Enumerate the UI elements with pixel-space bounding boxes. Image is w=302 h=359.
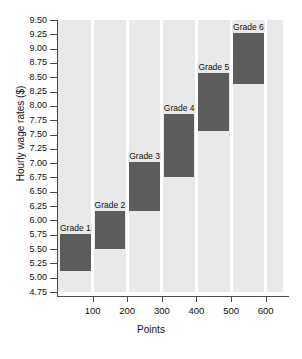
bar-label-grade-3: Grade 3 [128, 151, 161, 161]
y-tick-label-wrap: 8.50 [0, 73, 58, 82]
y-tick-label-9.00: 9.00 [3, 44, 58, 53]
y-tick-label-wrap: 9.25 [0, 30, 58, 39]
bar-grade-6 [233, 33, 264, 84]
x-tick-600 [266, 296, 267, 302]
y-tick-label-6.00: 6.00 [3, 216, 58, 225]
y-tick-label-8.25: 8.25 [3, 87, 58, 96]
y-tick-label-6.75: 6.75 [3, 173, 58, 182]
y-tick-label-wrap: 7.25 [0, 144, 58, 153]
bar-label-grade-2: Grade 2 [94, 200, 127, 210]
y-tick-label-5.25: 5.25 [3, 259, 58, 268]
y-tick-label-wrap: 6.50 [0, 187, 58, 196]
y-tick-label-6.25: 6.25 [3, 202, 58, 211]
y-tick-label-wrap: 5.75 [0, 230, 58, 239]
gridline-x-100 [91, 20, 94, 292]
bar-label-grade-5: Grade 5 [197, 62, 230, 72]
y-tick-label-wrap: 9.00 [0, 44, 58, 53]
x-tick-300 [162, 296, 163, 302]
bar-grade-2 [95, 211, 126, 249]
y-tick-label-wrap: 6.00 [0, 216, 58, 225]
y-tick-label-wrap: 9.50 [0, 16, 58, 25]
y-tick-label-wrap: 8.25 [0, 87, 58, 96]
x-tick-500 [231, 296, 232, 302]
y-tick-label-5.75: 5.75 [3, 230, 58, 239]
y-tick-label-wrap: 5.25 [0, 259, 58, 268]
wage-structure-chart: Hourly wage rates ($) Points Grade 1Grad… [0, 0, 302, 359]
y-tick-label-wrap: 7.75 [0, 116, 58, 125]
x-tick-200 [127, 296, 128, 302]
bar-label-grade-6: Grade 6 [232, 22, 265, 32]
y-tick-label-9.50: 9.50 [3, 16, 58, 25]
y-tick-label-7.00: 7.00 [3, 159, 58, 168]
y-tick-label-wrap: 4.75 [0, 288, 58, 297]
y-tick-label-wrap: 7.50 [0, 130, 58, 139]
y-tick-label-8.50: 8.50 [3, 73, 58, 82]
bar-grade-4 [164, 114, 195, 177]
y-tick-label-7.25: 7.25 [3, 144, 58, 153]
y-tick-label-wrap: 6.75 [0, 173, 58, 182]
bar-label-grade-1: Grade 1 [59, 223, 92, 233]
x-tick-400 [196, 296, 197, 302]
y-tick-label-4.75: 4.75 [3, 288, 58, 297]
y-tick-label-wrap: 8.00 [0, 101, 58, 110]
x-tick-label-600: 600 [246, 305, 286, 316]
y-tick-label-wrap: 7.00 [0, 159, 58, 168]
bar-grade-1 [60, 234, 91, 272]
bar-label-grade-4: Grade 4 [163, 103, 196, 113]
y-tick-label-wrap: 8.75 [0, 58, 58, 67]
y-tick-label-5.00: 5.00 [3, 273, 58, 282]
y-tick-label-6.50: 6.50 [3, 187, 58, 196]
y-tick-label-7.75: 7.75 [3, 116, 58, 125]
y-tick-label-8.75: 8.75 [3, 58, 58, 67]
y-tick-label-wrap: 6.25 [0, 202, 58, 211]
bar-grade-3 [129, 162, 160, 211]
bar-grade-5 [198, 73, 229, 131]
y-tick-label-7.50: 7.50 [3, 130, 58, 139]
y-tick-label-8.00: 8.00 [3, 101, 58, 110]
x-tick-100 [93, 296, 94, 302]
x-axis-title: Points [0, 324, 302, 335]
y-tick-label-5.50: 5.50 [3, 245, 58, 254]
gridline-x-600 [264, 20, 267, 292]
y-tick-label-wrap: 5.50 [0, 245, 58, 254]
y-tick-label-9.25: 9.25 [3, 30, 58, 39]
y-tick-label-wrap: 5.00 [0, 273, 58, 282]
